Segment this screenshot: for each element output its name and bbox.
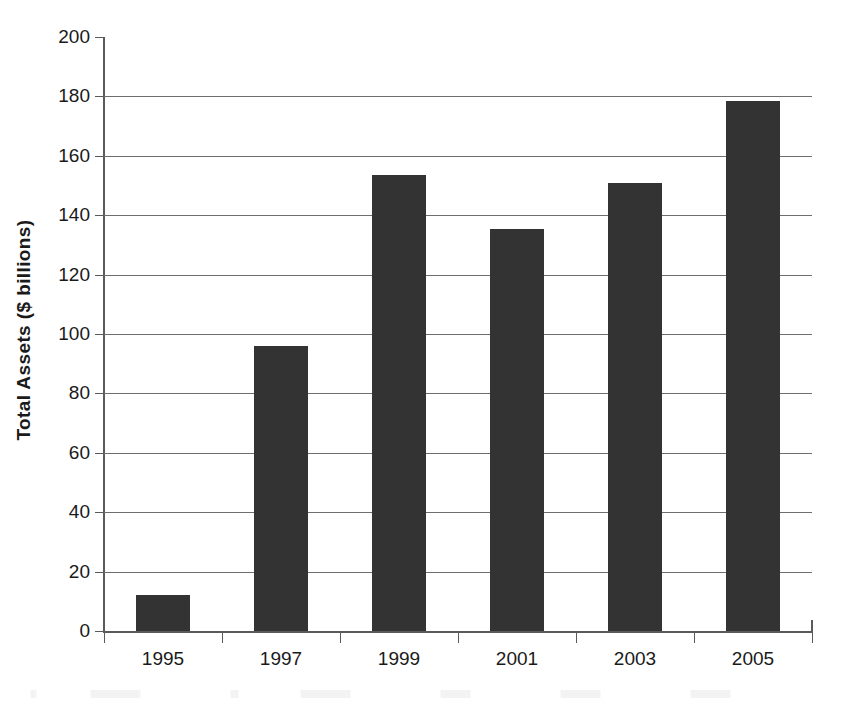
- y-axis-tick-160: [95, 156, 104, 157]
- bar-2005: [726, 101, 780, 631]
- y-tick-label-20: 20: [69, 561, 90, 583]
- x-tick-label-2003: 2003: [614, 648, 656, 670]
- x-axis-tick-2: [340, 633, 341, 643]
- scan-artifact: [0, 690, 841, 698]
- y-tick-label-40: 40: [69, 501, 90, 523]
- x-tick-label-1999: 1999: [378, 648, 420, 670]
- y-tick-label-180: 180: [58, 85, 90, 107]
- bar-1995: [136, 595, 190, 631]
- y-axis-tick-40: [95, 512, 104, 513]
- y-tick-label-0: 0: [79, 620, 90, 642]
- bar-1999: [372, 175, 426, 631]
- bar-chart-figure: Total Assets ($ billions) 02040608010012…: [0, 0, 841, 707]
- y-axis-title: Total Assets ($ billions): [0, 0, 48, 660]
- y-axis-tick-140: [95, 215, 104, 216]
- x-tick-label-2001: 2001: [496, 648, 538, 670]
- y-axis-tick-labels: 020406080100120140160180200: [48, 0, 98, 707]
- bars-layer: [104, 37, 812, 631]
- y-tick-label-80: 80: [69, 382, 90, 404]
- x-axis-end-tick: [811, 620, 813, 632]
- bar-2003: [608, 183, 662, 631]
- x-axis-tick-4: [576, 633, 577, 643]
- y-axis-tick-80: [95, 393, 104, 394]
- y-axis-tick-180: [95, 96, 104, 97]
- bar-2001: [490, 229, 544, 631]
- y-axis-tick-100: [95, 334, 104, 335]
- y-tick-label-160: 160: [58, 145, 90, 167]
- y-axis-tick-200: [95, 37, 104, 38]
- x-axis-tick-6: [812, 633, 813, 643]
- x-axis-tick-1: [222, 633, 223, 643]
- y-axis-tick-20: [95, 572, 104, 573]
- y-axis-tick-60: [95, 453, 104, 454]
- y-axis-tick-120: [95, 275, 104, 276]
- x-axis-tick-labels: 199519971999200120032005: [104, 648, 812, 678]
- x-axis-tick-0: [104, 633, 105, 643]
- y-tick-label-140: 140: [58, 204, 90, 226]
- y-axis-title-text: Total Assets ($ billions): [13, 219, 35, 440]
- x-tick-label-1995: 1995: [142, 648, 184, 670]
- y-tick-label-100: 100: [58, 323, 90, 345]
- y-tick-label-60: 60: [69, 442, 90, 464]
- x-tick-label-2005: 2005: [732, 648, 774, 670]
- x-axis-tick-5: [694, 633, 695, 643]
- x-axis-tick-3: [458, 633, 459, 643]
- bar-1997: [254, 346, 308, 631]
- y-tick-label-200: 200: [58, 26, 90, 48]
- x-tick-label-1997: 1997: [260, 648, 302, 670]
- y-tick-label-120: 120: [58, 264, 90, 286]
